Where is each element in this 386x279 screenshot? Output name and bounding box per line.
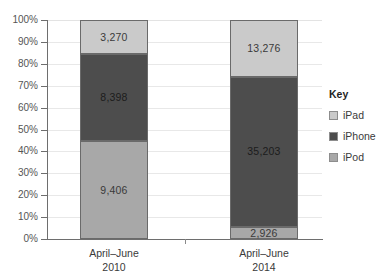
legend-item-label: iPad bbox=[343, 109, 364, 121]
y-axis-tick bbox=[41, 42, 47, 43]
bar-segment-ipad[interactable]: 3,270 bbox=[80, 20, 148, 54]
legend-item-iphone[interactable]: iPhone bbox=[329, 130, 386, 142]
legend-title: Key bbox=[329, 88, 386, 100]
bar-segment-iphone[interactable]: 35,203 bbox=[230, 77, 298, 227]
y-axis-tick-label: 70% bbox=[0, 80, 38, 91]
category-year: 2014 bbox=[204, 260, 324, 274]
y-axis-tick bbox=[41, 64, 47, 65]
legend-item-ipad[interactable]: iPad bbox=[329, 109, 386, 121]
category-period: April–June bbox=[89, 247, 139, 259]
category-period: April–June bbox=[239, 247, 289, 259]
bar-segment-value-label: 8,398 bbox=[100, 92, 127, 103]
x-axis-category-label: April–June2010 bbox=[54, 246, 174, 274]
y-axis-tick bbox=[41, 108, 47, 109]
bar-segment-ipod[interactable]: 9,406 bbox=[80, 141, 148, 239]
y-axis-labels: 100%90%80%70%60%50%40%30%20%10%0% bbox=[0, 0, 40, 279]
legend-item-label: iPod bbox=[343, 151, 364, 163]
bar[interactable]: 2,92635,20313,276 bbox=[230, 20, 298, 239]
y-axis-tick-label: 100% bbox=[0, 14, 38, 25]
y-axis-tick bbox=[41, 173, 47, 174]
y-axis-tick bbox=[41, 195, 47, 196]
y-axis-tick-label: 80% bbox=[0, 58, 38, 69]
y-axis-tick-label: 0% bbox=[0, 233, 38, 244]
y-axis-tick bbox=[41, 20, 47, 21]
y-axis-tick bbox=[41, 217, 47, 218]
bar-segment-value-label: 35,203 bbox=[247, 146, 280, 157]
legend-item-ipod[interactable]: iPod bbox=[329, 151, 386, 163]
legend-swatch-icon bbox=[329, 153, 338, 162]
y-axis-tick bbox=[41, 239, 47, 240]
legend-items: iPadiPhoneiPod bbox=[329, 109, 386, 163]
bar-segment-value-label: 9,406 bbox=[100, 185, 127, 196]
legend-item-label: iPhone bbox=[343, 130, 376, 142]
y-axis-tick-label: 90% bbox=[0, 36, 38, 47]
bar-segment-value-label: 13,276 bbox=[247, 43, 280, 54]
stacked-bar-chart: 100%90%80%70%60%50%40%30%20%10%0% 9,4068… bbox=[0, 0, 386, 279]
y-axis-line bbox=[47, 20, 48, 240]
legend: Key iPadiPhoneiPod bbox=[329, 88, 386, 172]
bar[interactable]: 9,4068,3983,270 bbox=[80, 20, 148, 239]
bar-segment-value-label: 2,926 bbox=[250, 228, 277, 239]
y-axis-tick bbox=[41, 86, 47, 87]
bar-segment-value-label: 3,270 bbox=[100, 32, 127, 43]
bar-segment-iphone[interactable]: 8,398 bbox=[80, 54, 148, 141]
bar-segment-ipad[interactable]: 13,276 bbox=[230, 20, 298, 77]
y-axis-tick-label: 10% bbox=[0, 211, 38, 222]
y-axis-tick-label: 50% bbox=[0, 124, 38, 135]
x-axis-tick bbox=[185, 239, 186, 244]
y-axis-tick-label: 30% bbox=[0, 167, 38, 178]
legend-swatch-icon bbox=[329, 111, 338, 120]
y-axis-tick bbox=[41, 130, 47, 131]
y-axis-tick-label: 40% bbox=[0, 145, 38, 156]
legend-swatch-icon bbox=[329, 132, 338, 141]
y-axis-tick-label: 60% bbox=[0, 102, 38, 113]
x-axis-category-label: April–June2014 bbox=[204, 246, 324, 274]
category-year: 2010 bbox=[54, 260, 174, 274]
y-axis-tick bbox=[41, 151, 47, 152]
bar-segment-ipod[interactable]: 2,926 bbox=[230, 227, 298, 239]
y-axis-tick-label: 20% bbox=[0, 189, 38, 200]
